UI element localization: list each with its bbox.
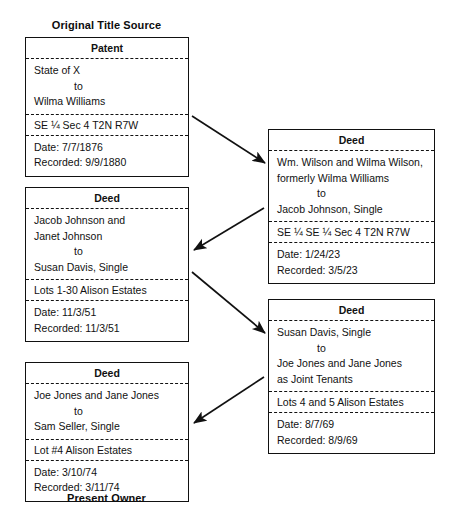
document-parties: State of X to Wilma Williams [26,59,188,115]
document-box-patent: Patent State of X to Wilma Williams SE ¼… [25,37,189,177]
date-line: Date: 11/3/51 [34,305,188,321]
date-line: Date: 1/24/23 [277,247,434,263]
legal-description: SE ¼ Sec 4 T2N R7W [26,115,188,136]
document-parties: Joe Jones and Jane Jones to Sam Seller, … [26,384,188,440]
document-dates: Date: 7/7/1876 Recorded: 9/9/1880 [26,136,188,176]
legal-description: Lots 1-30 Alison Estates [26,280,188,301]
recorded-line: Recorded: 9/9/1880 [34,155,188,171]
document-title: Deed [26,188,188,209]
arrow-deed-3-to-deed-4 [194,377,264,423]
grantor-line: Joe Jones and Jane Jones [34,388,188,404]
document-box-deed-2: Deed Jacob Johnson and Janet Johnson to … [25,187,189,342]
document-box-deed-3: Deed Susan Davis, Single to Joe Jones an… [268,299,435,454]
recorded-line: Recorded: 8/9/69 [277,433,434,449]
connector-line: to [277,186,434,202]
document-dates: Date: 1/24/23 Recorded: 3/5/23 [269,243,434,283]
document-parties: Jacob Johnson and Janet Johnson to Susan… [26,209,188,280]
grantee-line: Jacob Johnson, Single [277,202,434,218]
arrow-deed-2-to-deed-3 [192,272,265,333]
document-dates: Date: 11/3/51 Recorded: 11/3/51 [26,301,188,341]
connector-line: to [34,244,188,260]
recorded-line: Recorded: 3/5/23 [277,263,434,279]
grantee-line: Wilma Williams [34,94,188,110]
connector-line: to [34,79,188,95]
legal-description: Lots 4 and 5 Alison Estates [269,392,434,413]
grantee-line: Joe Jones and Jane Jones [277,356,434,372]
grantee-line: Sam Seller, Single [34,419,188,435]
document-title: Deed [269,130,434,151]
present-owner-caption: Present Owner [0,492,213,504]
document-dates: Date: 8/7/69 Recorded: 8/9/69 [269,413,434,453]
connector-line: to [34,404,188,420]
recorded-line: Recorded: 11/3/51 [34,321,188,337]
grantor-line: Susan Davis, Single [277,325,434,341]
document-title: Deed [26,363,188,384]
grantee-line: Susan Davis, Single [34,260,188,276]
grantor-line-2: Janet Johnson [34,229,188,245]
grantor-line: Jacob Johnson and [34,213,188,229]
document-parties: Wm. Wilson and Wilma Wilson, formerly Wi… [269,151,434,222]
grantor-line-2: formerly Wilma Williams [277,171,434,187]
document-box-deed-4: Deed Joe Jones and Jane Jones to Sam Sel… [25,362,189,502]
date-line: Date: 3/10/74 [34,465,188,481]
arrow-patent-to-deed-1 [192,116,265,163]
document-box-deed-1: Deed Wm. Wilson and Wilma Wilson, former… [268,129,435,284]
chain-of-title-diagram: Original Title Source Patent State of X … [0,0,457,515]
date-line: Date: 8/7/69 [277,417,434,433]
grantee-line-2: as Joint Tenants [277,372,434,388]
connector-line: to [277,341,434,357]
original-title-source-caption: Original Title Source [0,19,213,31]
grantor-line: Wm. Wilson and Wilma Wilson, [277,155,434,171]
document-parties: Susan Davis, Single to Joe Jones and Jan… [269,321,434,392]
arrow-deed-1-to-deed-2 [194,208,264,250]
document-title: Deed [269,300,434,321]
grantor-line: State of X [34,63,188,79]
legal-description: SE ¼ SE ¼ Sec 4 T2N R7W [269,222,434,243]
date-line: Date: 7/7/1876 [34,140,188,156]
document-title: Patent [26,38,188,59]
legal-description: Lot #4 Alison Estates [26,440,188,461]
